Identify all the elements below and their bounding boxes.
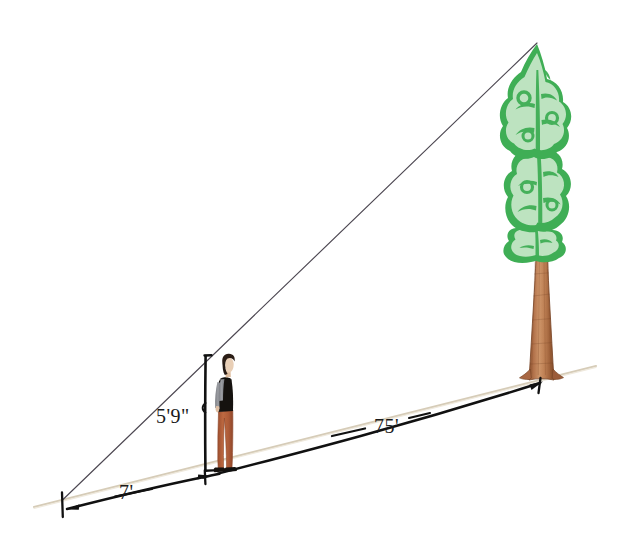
person-height-label: 5'9": [156, 405, 190, 428]
tree-foliage-upper: [500, 44, 571, 159]
line-of-sight: [63, 43, 538, 500]
vertex-to-person-label: 7': [119, 481, 134, 504]
tree-figure: [500, 44, 571, 380]
similar-triangles-diagram: [0, 0, 639, 533]
person-to-tree-label: 75': [374, 415, 399, 438]
tree-trunk: [520, 257, 564, 380]
diagram-canvas: 5'9" 7' 75': [0, 0, 639, 533]
observer-figure: [213, 354, 237, 472]
height-dimension: [203, 355, 213, 471]
